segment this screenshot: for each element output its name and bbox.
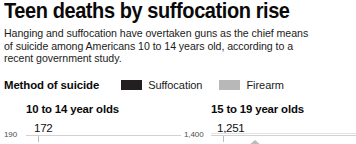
legend-label-firearm: Firearm — [246, 79, 284, 91]
y-axis-max-label: 190 — [4, 130, 17, 139]
subtitle-line: Hanging and suffocation have overtaken g… — [4, 27, 354, 40]
legend-item-firearm: Firearm — [219, 79, 284, 91]
peak-value-label: 172 — [34, 121, 52, 134]
legend-item-suffocation: Suffocation — [121, 79, 202, 91]
subtitle-line: of suicide among Americans 10 to 14 year… — [4, 40, 354, 53]
subtitle-line: recent government study. — [4, 52, 354, 65]
chart-panel-10-to-14: 10 to 14 year olds 190 172 — [26, 103, 186, 144]
gridline — [26, 135, 181, 136]
plot-area: 190 172 — [26, 120, 186, 144]
panel-title: 15 to 19 year olds — [211, 103, 356, 116]
gridline — [211, 135, 356, 136]
legend-label-suffocation: Suffocation — [148, 79, 202, 91]
infographic-root: Teen deaths by suffocation rise Hanging … — [0, 0, 356, 144]
plot-area: 1,400 1,251 — [211, 120, 356, 144]
legend-swatch-suffocation-icon — [121, 80, 142, 90]
y-axis-max-label: 1,400 — [184, 130, 204, 139]
chart-legend: Method of suicide Suffocation Firearm — [4, 78, 284, 92]
axis-tick — [223, 136, 224, 142]
baseline-rule — [211, 133, 356, 134]
page-title: Teen deaths by suffocation rise — [4, 0, 290, 23]
panel-title: 10 to 14 year olds — [26, 103, 186, 116]
firearm-area-series — [241, 140, 269, 144]
chart-panel-15-to-19: 15 to 19 year olds 1,400 1,251 — [211, 103, 356, 144]
legend-swatch-firearm-icon — [219, 80, 240, 90]
legend-title: Method of suicide — [4, 79, 99, 91]
subtitle-deck: Hanging and suffocation have overtaken g… — [4, 27, 354, 65]
axis-tick — [38, 136, 39, 142]
